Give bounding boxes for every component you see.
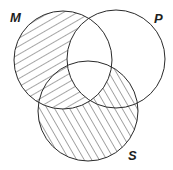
- label-p: P: [154, 11, 163, 26]
- label-m: M: [10, 10, 22, 25]
- venn-diagram: M P S: [0, 0, 173, 170]
- region-s-minus-m: [38, 61, 138, 161]
- label-s: S: [128, 148, 137, 163]
